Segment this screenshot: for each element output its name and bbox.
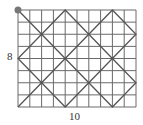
grid: [18, 10, 136, 107]
start-point: [15, 7, 22, 14]
height-label: 8: [7, 50, 13, 62]
billiard-grid-diagram: [0, 0, 143, 125]
width-label: 10: [69, 110, 80, 122]
